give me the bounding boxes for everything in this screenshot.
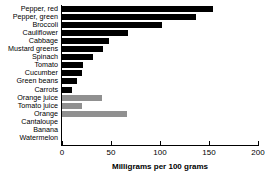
x-tick-label: 0 [60,148,64,157]
bar-row [62,69,258,77]
bar-row [62,53,258,61]
bar [62,87,72,93]
x-tick [209,141,210,146]
bar-row [62,126,258,134]
bar [62,62,83,68]
bar-row [62,5,258,13]
bar [62,30,128,36]
bar-row [62,110,258,118]
bar-row [62,13,258,21]
bar [62,78,77,84]
bar [62,6,213,12]
bar-row [62,45,258,53]
bar-chart: Pepper, redPepper, greenBroccoliCauliflo… [0,0,271,184]
bar [62,103,82,109]
bar [62,14,196,20]
x-tick-label: 100 [153,148,166,157]
bar-row [62,102,258,110]
bar-row [62,118,258,126]
bar-row [62,86,258,94]
bar [62,54,93,60]
x-axis-title: Milligrams per 100 grams [62,162,258,171]
bar-row [62,29,258,37]
x-tick-label: 200 [251,148,264,157]
bar-row [62,77,258,85]
x-tick [258,141,259,146]
bar-row [62,21,258,29]
x-tick-label: 150 [202,148,215,157]
bar-row [62,37,258,45]
bar [62,38,109,44]
bar [62,22,162,28]
bar [62,95,102,101]
x-tick [111,141,112,146]
bar [62,111,127,117]
x-tick [62,141,63,146]
x-tick-label: 50 [107,148,116,157]
bar [62,46,103,52]
category-label: Watermelon [20,134,58,142]
bar [62,70,82,76]
bar-row [62,61,258,69]
x-tick [160,141,161,146]
bar-row [62,94,258,102]
